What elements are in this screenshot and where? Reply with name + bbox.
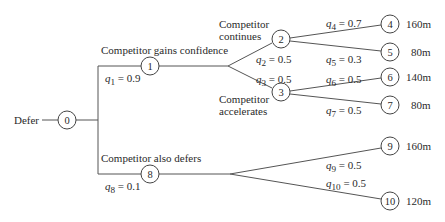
branch-gains-confidence-label: Competitor gains confidence [101, 44, 228, 56]
prob-q4: q4 = 0.7 [326, 17, 362, 33]
prob-q10: q10 = 0.5 [326, 177, 366, 193]
node-7-label: 7 [387, 100, 392, 111]
branch-accelerates-label-2: accelerates [219, 105, 267, 117]
node-8-label: 8 [147, 169, 152, 180]
node-2-label: 2 [278, 34, 283, 45]
prob-q9: q9 = 0.5 [326, 159, 362, 175]
node-6-label: 6 [387, 72, 392, 83]
branch-continues-label-1: Competitor [219, 18, 269, 30]
node-1-label: 1 [147, 61, 152, 72]
payoff-node-6: 140m [406, 71, 431, 83]
branch-continues-label-2: continues [219, 30, 261, 42]
branch-also-defers-label: Competitor also defers [101, 152, 201, 164]
payoff-node-7: 80m [411, 99, 431, 111]
decision-tree-diagram: 0 1 2 3 4 5 6 7 8 9 10 Defer Competitor … [0, 0, 445, 222]
prob-q8: q8 = 0.1 [105, 180, 141, 196]
node-9-label: 9 [387, 141, 392, 152]
prob-q6: q6 = 0.5 [326, 73, 362, 89]
node-0-label: 0 [64, 115, 69, 126]
prob-q2: q2 = 0.5 [256, 53, 292, 69]
branch-accelerates-label-1: Competitor [219, 93, 269, 105]
root-label: Defer [14, 114, 39, 126]
payoff-node-5: 80m [411, 46, 431, 58]
node-4-label: 4 [387, 19, 393, 30]
prob-q1: q1 = 0.9 [105, 72, 141, 88]
payoff-node-4: 160m [406, 18, 431, 30]
node-5-label: 5 [387, 47, 392, 58]
prob-q3: q3 = 0.5 [256, 73, 292, 89]
prob-q7: q7 = 0.5 [326, 104, 362, 120]
prob-q5: q5 = 0.3 [326, 53, 362, 69]
node-10-label: 10 [385, 196, 396, 207]
payoff-node-9: 160m [406, 140, 431, 152]
payoff-node-10: 120m [406, 195, 431, 207]
